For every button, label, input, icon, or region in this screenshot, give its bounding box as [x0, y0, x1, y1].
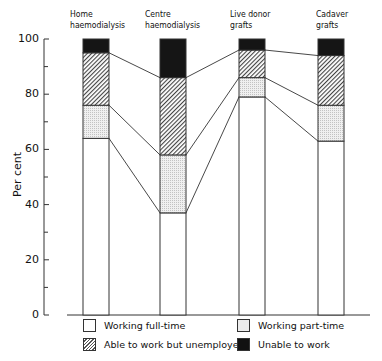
legend-label: Working part-time [258, 320, 344, 331]
bar-stack [239, 39, 265, 315]
stacked-bar-chart [0, 0, 382, 361]
swatch-black-icon [237, 338, 250, 351]
legend-item-unemployed: Able to work but unemployed [83, 338, 245, 351]
bar-segment [160, 213, 186, 315]
swatch-hatched-icon [83, 338, 96, 351]
bar-segment [83, 39, 109, 53]
bar-segment [318, 56, 344, 106]
bar-segment [160, 78, 186, 155]
y-tick-label: 100 [9, 32, 39, 45]
bar-segment [83, 138, 109, 315]
bar-segment [83, 105, 109, 138]
bar-stack [318, 39, 344, 315]
bar-segment [160, 155, 186, 213]
swatch-dotted-icon [237, 319, 250, 332]
y-tick-label: 20 [9, 253, 39, 266]
legend-label: Able to work but unemployed [104, 339, 245, 350]
bar-segment [160, 39, 186, 78]
category-label: Cadavergrafts [316, 8, 348, 30]
bar-segment [318, 39, 344, 56]
bars [83, 39, 344, 315]
legend-item-part-time: Working part-time [237, 319, 344, 332]
category-label: Centrehaemodialysis [145, 8, 200, 30]
bar-segment [239, 78, 265, 97]
bar-segment [239, 97, 265, 315]
swatch-white-icon [83, 319, 96, 332]
bar-stack [83, 39, 109, 315]
bar-segment [318, 141, 344, 315]
y-axis-label: Per cent [11, 150, 24, 200]
connecting-lines [109, 50, 318, 213]
category-label: Live donorgrafts [230, 8, 270, 30]
legend-label: Unable to work [258, 339, 330, 350]
y-tick-label: 80 [9, 87, 39, 100]
bar-segment [83, 53, 109, 105]
legend-item-unable: Unable to work [237, 338, 330, 351]
category-label: Homehaemodialysis [70, 8, 125, 30]
legend-label: Working full-time [104, 320, 185, 331]
bar-stack [160, 39, 186, 315]
bar-segment [318, 105, 344, 141]
bar-segment [239, 39, 265, 50]
y-tick-label: 0 [9, 308, 39, 321]
bar-segment [239, 50, 265, 78]
legend: Working full-time Working part-time Able… [80, 319, 380, 359]
y-tick-label: 40 [9, 198, 39, 211]
legend-item-full-time: Working full-time [83, 319, 185, 332]
